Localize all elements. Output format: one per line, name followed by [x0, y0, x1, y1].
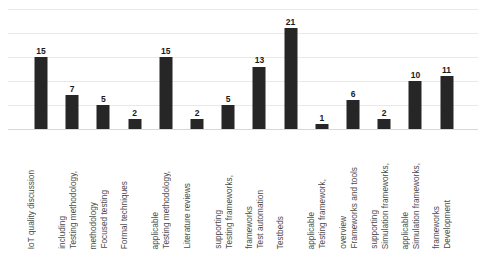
category-label-line: Testing methodology, — [161, 171, 172, 249]
category-label-lines: Simulation frameworks,supporting — [369, 130, 400, 249]
category-label: IoT quality discussion — [26, 130, 57, 253]
bar-group[interactable]: 2 — [119, 0, 150, 130]
category-label: Testing frameworks,supporting — [213, 130, 244, 253]
bar[interactable] — [440, 76, 453, 129]
bar-group[interactable]: 2 — [182, 0, 213, 130]
bar-value-label: 11 — [442, 65, 451, 75]
category-label-lines: Testing methodology,applicable — [150, 130, 181, 249]
category-label-line: Testbeds — [275, 216, 286, 249]
bar-value-label: 6 — [351, 89, 356, 99]
category-label-lines: Literature reviews — [182, 130, 213, 249]
bar-chart: 15752152513211621011 IoT quality discuss… — [0, 0, 484, 253]
category-label-lines: Simulation frameworks,applicable — [400, 130, 431, 249]
category-label-lines: Test automationframeworks — [244, 130, 275, 249]
category-label-line: supporting — [369, 210, 380, 249]
category-label: Testing framework,applicable — [306, 130, 337, 253]
category-label: Developmentframeworks — [431, 130, 462, 253]
bar-value-label: 10 — [411, 70, 420, 80]
category-label: Testing methodology,applicable — [150, 130, 181, 253]
category-label-line: Testing methodology, — [68, 171, 79, 249]
category-label-lines: Testing methodology,including — [57, 130, 88, 249]
category-label-line: Test automation — [255, 190, 266, 249]
category-label: Frameworks and toolsoverview — [338, 130, 369, 253]
bar-value-label: 15 — [36, 46, 45, 56]
bar[interactable] — [191, 119, 204, 129]
plot-area: 15752152513211621011 — [0, 0, 484, 130]
bar[interactable] — [128, 119, 141, 129]
bar-group[interactable]: 13 — [244, 0, 275, 130]
category-label-lines: Testing frameworks,supporting — [213, 130, 244, 249]
bar[interactable] — [378, 119, 391, 129]
category-label-lines: Developmentframeworks — [431, 130, 462, 249]
bar-group[interactable]: 21 — [275, 0, 306, 130]
category-label: Testing methodology,including — [57, 130, 88, 253]
category-label: Formal techniques — [119, 130, 150, 253]
bar-group[interactable]: 2 — [369, 0, 400, 130]
bar-group[interactable]: 5 — [213, 0, 244, 130]
category-label: Focused testingmethodology — [88, 130, 119, 253]
bar[interactable] — [315, 124, 328, 129]
category-label: Literature reviews — [182, 130, 213, 253]
category-label-line: Testing framework, — [317, 179, 328, 249]
bar-value-label: 2 — [132, 108, 137, 118]
bar[interactable] — [409, 81, 422, 129]
category-label-line: frameworks — [431, 206, 442, 249]
bars-layer: 15752152513211621011 — [0, 0, 484, 130]
category-label-line: Formal techniques — [119, 181, 130, 249]
bar-group[interactable]: 15 — [150, 0, 181, 130]
bar-value-label: 2 — [195, 108, 200, 118]
category-label: Simulation frameworks,supporting — [369, 130, 400, 253]
category-label-line: Frameworks and tools — [349, 167, 360, 249]
category-label-line: Focused testing — [99, 190, 110, 249]
bar[interactable] — [159, 57, 172, 129]
category-label-lines: Testing framework,applicable — [306, 130, 337, 249]
category-label-line: Simulation frameworks, — [411, 163, 422, 249]
bar-value-label: 2 — [382, 108, 387, 118]
category-label-line: Development — [442, 200, 453, 249]
category-label-line: applicable — [306, 212, 317, 249]
category-label: Testbeds — [275, 130, 306, 253]
bar[interactable] — [35, 57, 48, 129]
bar[interactable] — [222, 105, 235, 129]
category-label-line: supporting — [213, 210, 224, 249]
bar-value-label: 13 — [255, 55, 264, 65]
bar[interactable] — [66, 95, 79, 129]
bar[interactable] — [284, 28, 297, 129]
category-label-line: Testing frameworks, — [224, 175, 235, 249]
category-label-line: applicable — [150, 212, 161, 249]
category-label-line: Simulation frameworks, — [380, 163, 391, 249]
category-label-line: Literature reviews — [182, 183, 193, 249]
bar-value-label: 21 — [286, 17, 295, 27]
bar-group[interactable]: 5 — [88, 0, 119, 130]
category-label-lines: Frameworks and toolsoverview — [338, 130, 369, 249]
bar[interactable] — [347, 100, 360, 129]
bar-value-label: 15 — [161, 46, 170, 56]
category-label-line: IoT quality discussion — [26, 170, 37, 249]
bar-value-label: 1 — [319, 113, 324, 123]
category-label-line: frameworks — [244, 206, 255, 249]
category-label-lines: Formal techniques — [119, 130, 150, 249]
bar[interactable] — [97, 105, 110, 129]
category-label-line: applicable — [400, 212, 411, 249]
bar-group[interactable]: 15 — [26, 0, 57, 130]
bar-group[interactable]: 7 — [57, 0, 88, 130]
bar-value-label: 5 — [226, 94, 231, 104]
category-label-lines: IoT quality discussion — [26, 130, 57, 249]
bar[interactable] — [253, 67, 266, 129]
category-label-line: methodology — [88, 202, 99, 249]
category-label-line: including — [57, 216, 68, 249]
category-axis-labels: IoT quality discussionTesting methodolog… — [0, 130, 484, 253]
bar-value-label: 5 — [101, 94, 106, 104]
category-label-lines: Testbeds — [275, 130, 306, 249]
bar-value-label: 7 — [70, 84, 75, 94]
bar-group[interactable]: 11 — [431, 0, 462, 130]
bar-group[interactable]: 1 — [306, 0, 337, 130]
category-label-lines: Focused testingmethodology — [88, 130, 119, 249]
bar-group[interactable]: 10 — [400, 0, 431, 130]
category-label: Test automationframeworks — [244, 130, 275, 253]
bar-group[interactable]: 6 — [338, 0, 369, 130]
category-label: Simulation frameworks,applicable — [400, 130, 431, 253]
category-label-line: overview — [338, 216, 349, 249]
